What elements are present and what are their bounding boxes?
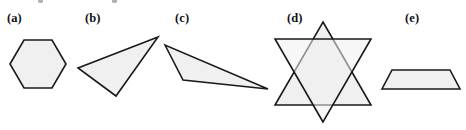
panel-label-a: (a) [7, 12, 22, 25]
panel-label-b: (b) [85, 12, 101, 25]
shape-trapezoid [382, 70, 460, 89]
panel-label-c: (c) [175, 12, 189, 25]
panel-label-d: (d) [287, 12, 303, 25]
panel-label-e: (e) [405, 12, 419, 25]
shape-hexagon [10, 40, 66, 88]
shape-obtuse-triangle [165, 45, 268, 89]
shape-acute-triangle [78, 37, 158, 96]
geometry-figure: (a) (b) (c) (d) (e) [0, 0, 466, 130]
shapes-canvas [0, 0, 466, 130]
